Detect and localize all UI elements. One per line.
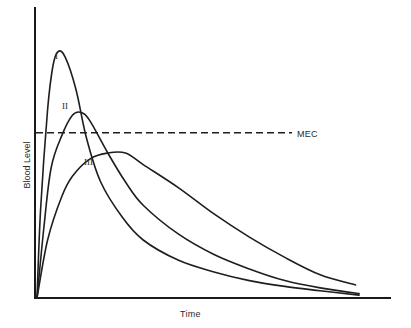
curve-iii-label: III	[84, 157, 93, 167]
pharmacokinetic-chart	[0, 0, 411, 328]
curve-ii-label: II	[62, 101, 68, 111]
mec-label: MEC	[297, 129, 318, 139]
curve-i	[37, 51, 359, 298]
curve-iii	[37, 152, 356, 298]
curve-i-label: I	[55, 51, 58, 61]
x-axis-label: Time	[180, 309, 201, 319]
y-axis-label: Blood Level	[22, 141, 32, 188]
